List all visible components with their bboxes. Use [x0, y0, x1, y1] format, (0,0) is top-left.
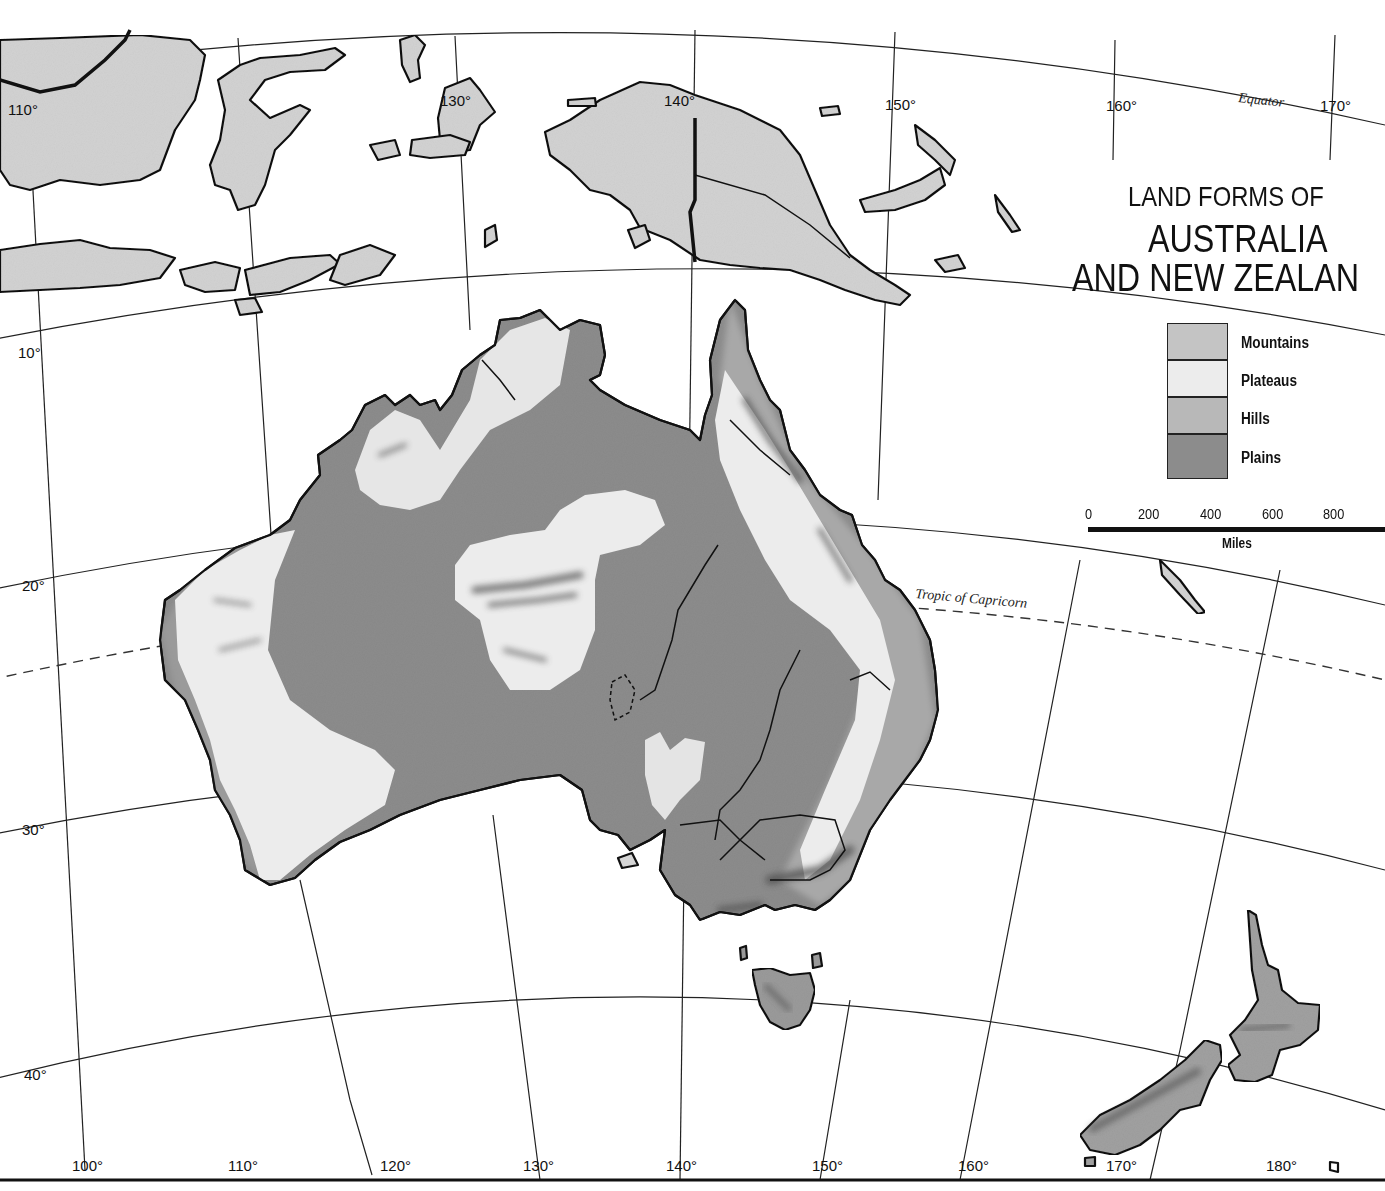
svg-text:10°: 10°	[18, 344, 41, 361]
map-title-line3: AND NEW ZEALAN	[1072, 259, 1359, 297]
svg-text:150°: 150°	[812, 1157, 843, 1174]
legend-label-hills: Hills	[1241, 410, 1270, 428]
svg-text:170°: 170°	[1320, 97, 1351, 114]
svg-text:130°: 130°	[523, 1157, 554, 1174]
legend-swatch-hills	[1167, 397, 1228, 434]
svg-text:110°: 110°	[8, 101, 38, 118]
svg-text:160°: 160°	[958, 1157, 989, 1174]
equator-label: Equator	[1237, 90, 1286, 110]
tropic-label: Tropic of Capricorn	[915, 586, 1028, 611]
svg-text:150°: 150°	[885, 96, 916, 113]
map-title-line2: AUSTRALIA	[1148, 220, 1327, 258]
landforms-map: 110° 130° 140° 150° 160° 170° 100° 110° …	[0, 0, 1385, 1191]
map-title-line1: LAND FORMS OF	[1128, 183, 1324, 211]
legend-swatch-plains	[1167, 434, 1228, 479]
legend-swatch-mountains	[1167, 323, 1228, 360]
scale-tick-800: 800	[1323, 505, 1344, 522]
svg-text:140°: 140°	[666, 1157, 697, 1174]
svg-text:140°: 140°	[664, 92, 695, 109]
svg-text:100°: 100°	[72, 1157, 103, 1174]
svg-text:160°: 160°	[1106, 97, 1137, 114]
australia-mainland	[160, 300, 938, 920]
svg-text:180°: 180°	[1266, 1157, 1297, 1174]
legend-swatch-plateaus	[1167, 360, 1228, 397]
scale-unit: Miles	[1222, 535, 1252, 551]
legend-label-plateaus: Plateaus	[1241, 372, 1297, 390]
latitude-labels: 10° 20° 30° 40°	[18, 344, 47, 1083]
svg-text:130°: 130°	[440, 92, 471, 109]
svg-text:120°: 120°	[380, 1157, 411, 1174]
scale-tick-200: 200	[1138, 505, 1159, 522]
legend-label-plains: Plains	[1241, 449, 1281, 467]
svg-text:40°: 40°	[24, 1066, 47, 1083]
svg-text:170°: 170°	[1106, 1157, 1137, 1174]
scale-tick-0: 0	[1085, 505, 1092, 522]
svg-text:110°: 110°	[228, 1157, 258, 1174]
svg-text:20°: 20°	[22, 577, 45, 594]
legend-label-mountains: Mountains	[1241, 334, 1309, 352]
longitude-labels-bottom: 100° 110° 120° 130° 140° 150° 160° 170° …	[72, 1157, 1297, 1174]
new-zealand	[1080, 910, 1338, 1172]
scale-tick-600: 600	[1262, 505, 1283, 522]
tasmania	[740, 946, 822, 1030]
scale-tick-400: 400	[1200, 505, 1221, 522]
scale-line	[1088, 527, 1385, 532]
svg-text:30°: 30°	[22, 821, 45, 838]
